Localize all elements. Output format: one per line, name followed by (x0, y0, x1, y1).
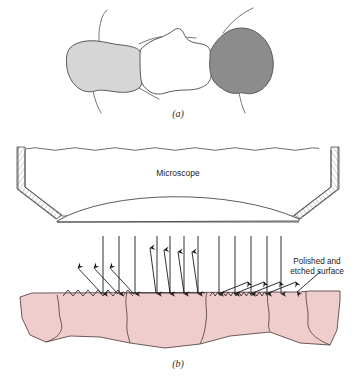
microscope-break-line (25, 148, 319, 151)
microscope-body: Microscope (17, 147, 339, 222)
microscope-wall-left (17, 147, 62, 219)
specimen-block (20, 290, 340, 348)
grain-left (66, 41, 142, 93)
panel-label-b: (b) (158, 358, 198, 369)
grain-right (210, 28, 274, 94)
panel-b-group: Microscope (17, 147, 344, 348)
figure-canvas: Microscope (0, 0, 356, 380)
grain-center (140, 29, 211, 94)
reflected-rays-grain-one (78, 268, 134, 294)
surface-label-line-1: Polished and (293, 257, 341, 266)
microscope-wall-right (294, 147, 339, 219)
surface-label-line-2: etched surface (290, 267, 344, 276)
metallography-figure: Microscope (0, 0, 356, 380)
specimen-body (20, 291, 340, 348)
panel-a-group (66, 8, 273, 113)
microscope-label: Microscope (156, 168, 200, 178)
objective-lens (57, 197, 299, 222)
incident-light-rays (103, 236, 281, 294)
panel-label-a: (a) (158, 108, 198, 119)
